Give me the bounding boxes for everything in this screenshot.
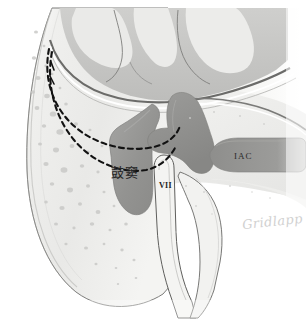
anatomical-illustration: 鼓窦 VII IAC Gridlapp <box>0 0 306 323</box>
temporal-bone-diagram <box>0 0 306 323</box>
bottom-fade-overlay <box>0 300 306 323</box>
right-fade-overlay <box>286 0 306 323</box>
